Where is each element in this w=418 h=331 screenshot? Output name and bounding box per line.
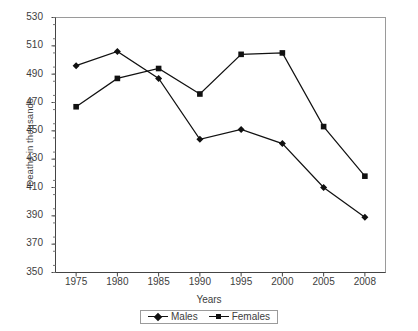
line-chart: Deaths in thousands 530 510 490 470 450 … (0, 0, 418, 331)
x-axis-title: Years (0, 294, 418, 305)
legend-marker-diamond-icon (148, 312, 168, 322)
x-tick-label: 1980 (94, 276, 140, 287)
x-tick-label: 1995 (218, 276, 264, 287)
x-tick-label: 1985 (136, 276, 182, 287)
x-tick-label: 2008 (342, 276, 388, 287)
legend-entry-females[interactable]: Females (209, 311, 270, 323)
legend-label: Females (232, 311, 270, 323)
legend-label: Males (171, 311, 198, 323)
x-tick-label: 1975 (53, 276, 99, 287)
x-tick-label: 2000 (259, 276, 305, 287)
legend-marker-square-icon (209, 312, 229, 322)
x-tick-label: 1990 (177, 276, 223, 287)
legend-entry-males[interactable]: Males (148, 311, 198, 323)
x-tick-label: 2005 (301, 276, 347, 287)
x-axis-tick-labels: 19751980198519901995200020052008 (0, 0, 418, 331)
chart-legend: Males Females (140, 310, 278, 324)
